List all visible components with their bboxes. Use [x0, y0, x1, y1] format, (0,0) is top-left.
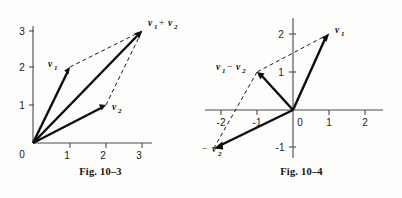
label-negv2-subscript: 2 — [217, 150, 222, 158]
vector-diff-shaft — [262, 76, 293, 110]
label-v2: v 2 — [112, 102, 122, 115]
x-tick-label-2: 2 — [100, 150, 106, 161]
label-v1-letter: v — [48, 59, 53, 69]
label-sum-v1-subscript: 1 — [154, 23, 158, 31]
vector-sum-shaft — [33, 36, 137, 143]
label-sum-v2-letter: v — [168, 18, 173, 28]
y-tick-label-pos1: 1 — [278, 67, 284, 78]
label-v1-letter: v — [335, 25, 340, 35]
plot-fig-10-4: -2 -1 1 2 2 1 -1 0 v 1 — [201, 0, 402, 170]
label-sum-v2-subscript: 2 — [173, 23, 178, 31]
plot-fig-10-3: 1 2 3 1 2 3 0 v 1 — [0, 0, 201, 170]
label-v1: v 1 — [335, 25, 345, 38]
construction-line-v2-to-sum — [106, 31, 142, 105]
label-diff-operator: − — [227, 62, 232, 72]
y-tick-label-2: 2 — [19, 62, 25, 73]
label-v1-minus-v2: v 1 − v 2 — [216, 62, 246, 75]
label-v2-subscript: 2 — [117, 107, 122, 115]
figure-caption-10-3: Fig. 10–3 — [0, 166, 201, 177]
label-v2-letter: v — [112, 102, 117, 112]
label-v1: v 1 — [48, 59, 58, 72]
label-sum-v1-letter: v — [148, 18, 153, 28]
label-negv2-letter: v — [212, 144, 217, 154]
vector-negv2-shaft — [221, 110, 293, 145]
vector-v1-shaft — [293, 39, 325, 110]
figure-sheet: 1 2 3 1 2 3 0 v 1 — [0, 0, 402, 198]
x-tick-label-pos1: 1 — [326, 117, 332, 128]
label-v1-subscript: 1 — [54, 64, 58, 72]
label-sum-operator: + — [159, 18, 164, 28]
figure-panel-10-4: -2 -1 1 2 2 1 -1 0 v 1 — [201, 0, 402, 198]
y-tick-label-pos2: 2 — [278, 29, 284, 40]
label-diff-v2-subscript: 2 — [241, 67, 246, 75]
x-tick-label-3: 3 — [136, 150, 142, 161]
y-tick-label-1: 1 — [19, 100, 25, 111]
y-tick-label-neg1: -1 — [276, 142, 285, 153]
vector-v2-shaft — [33, 108, 101, 143]
vector-v1-shaft — [33, 72, 68, 143]
label-v1-subscript: 1 — [341, 30, 345, 38]
y-tick-label-3: 3 — [19, 26, 25, 37]
x-tick-label-neg2: -2 — [217, 117, 226, 128]
x-tick-label-1: 1 — [64, 150, 70, 161]
origin-label: 0 — [297, 117, 303, 128]
figure-panel-10-3: 1 2 3 1 2 3 0 v 1 — [0, 0, 201, 198]
origin-label: 0 — [19, 149, 25, 160]
construction-line-v1-to-sum — [70, 31, 142, 67]
label-diff-v1-subscript: 1 — [222, 67, 226, 75]
figure-caption-10-4: Fig. 10–4 — [201, 166, 402, 177]
label-diff-v2-letter: v — [236, 62, 241, 72]
label-negv2-operator: − — [202, 144, 207, 154]
x-tick-label-pos2: 2 — [362, 117, 368, 128]
label-diff-v1-letter: v — [216, 62, 221, 72]
label-v1-plus-v2: v 1 + v 2 — [148, 18, 178, 31]
